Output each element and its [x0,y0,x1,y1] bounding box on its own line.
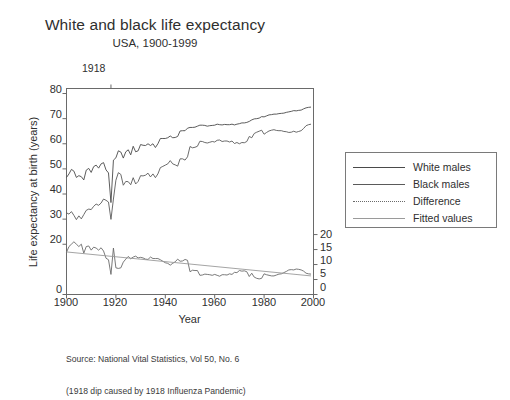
legend-item-black-males[interactable]: Black males [346,175,496,192]
legend-label-white-males: White males [413,161,471,173]
legend-label-difference: Difference [413,195,461,207]
legend-item-fitted-values[interactable]: Fitted values [346,209,496,226]
series-line-difference [67,242,312,279]
legend-line-icon-fitted-values [353,213,405,223]
series-line-black-males [67,124,312,219]
legend-item-difference[interactable]: Difference [346,192,496,209]
axis-frame [67,89,314,295]
source-note-line-1: Source: National Vital Statistics, Vol 5… [66,354,246,365]
legend-line-icon-white-males [353,162,405,172]
source-note-line-2: (1918 dip caused by 1918 Influenza Pande… [66,386,246,397]
axis-ticks-bottom [67,295,314,299]
legend-label-black-males: Black males [413,178,470,190]
axis-ticks-left [63,94,67,295]
source-note: Source: National Vital Statistics, Vol 5… [66,333,246,400]
series-line-fitted-values [67,252,312,276]
series-line-white-males [67,107,312,202]
legend-line-icon-black-males [353,179,405,189]
axis-ticks-right [314,235,318,295]
legend-item-white-males[interactable]: White males [346,158,496,175]
legend-label-fitted-values: Fitted values [413,212,473,224]
chart-legend: White males Black males Difference Fitte… [345,152,497,228]
legend-line-icon-difference [353,196,405,206]
